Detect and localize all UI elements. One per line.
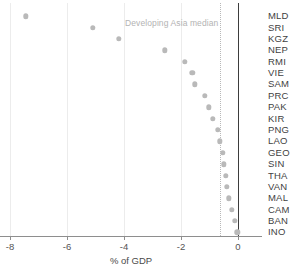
data-point-pak	[206, 105, 211, 110]
x-tick-mark-0	[10, 236, 11, 240]
category-label-ban: BAN	[268, 216, 304, 226]
data-point-mld	[23, 13, 28, 18]
data-point-ino	[235, 230, 240, 235]
category-label-mal: MAL	[268, 193, 304, 203]
zero-line	[238, 3, 239, 236]
category-label-kir: KIR	[268, 114, 304, 124]
category-label-sin: SIN	[268, 159, 304, 169]
gridline-neg2	[181, 3, 182, 236]
x-tick-mark-1	[67, 236, 68, 240]
category-labels-group: MLDSRIKGZNEPRMIVIESAMPRCPAKKIRPNGLAOGEOS…	[268, 0, 306, 240]
x-tick-mark-4	[238, 236, 239, 240]
data-point-sam	[192, 82, 197, 87]
category-label-kgz: KGZ	[268, 34, 304, 44]
data-point-vie	[189, 70, 194, 75]
category-label-sri: SRI	[268, 23, 304, 33]
category-label-cam: CAM	[268, 205, 304, 215]
data-point-kgz	[116, 36, 121, 41]
data-point-geo	[220, 150, 225, 155]
category-label-geo: GEO	[268, 148, 304, 158]
category-label-nep: NEP	[268, 45, 304, 55]
category-label-pak: PAK	[268, 102, 304, 112]
data-point-rmi	[182, 59, 187, 64]
category-label-van: VAN	[268, 182, 304, 192]
x-tick-label-2: -4	[120, 241, 128, 252]
category-label-rmi: RMI	[268, 57, 304, 67]
median-label: Developing Asia median	[125, 18, 218, 28]
data-point-prc	[202, 93, 207, 98]
data-point-sri	[90, 25, 95, 30]
x-tick-label-1: -6	[63, 241, 71, 252]
gridline-neg6	[67, 3, 68, 236]
x-tick-mark-3	[181, 236, 182, 240]
data-point-tha	[223, 173, 228, 178]
data-point-cam	[229, 207, 234, 212]
x-tick-label-4: 0	[235, 241, 240, 252]
data-point-sin	[221, 161, 226, 166]
data-point-ban	[232, 218, 237, 223]
category-label-prc: PRC	[268, 91, 304, 101]
data-point-van	[224, 184, 229, 189]
data-point-nep	[162, 48, 167, 53]
median-line	[220, 3, 221, 236]
category-label-mld: MLD	[268, 11, 304, 21]
gridline-neg4	[124, 3, 125, 236]
category-label-tha: THA	[268, 171, 304, 181]
x-tick-mark-2	[124, 236, 125, 240]
category-label-png: PNG	[268, 125, 304, 135]
data-point-lao	[217, 139, 222, 144]
x-axis-line	[0, 236, 262, 237]
plot-area: Developing Asia median	[0, 0, 262, 238]
category-label-sam: SAM	[268, 79, 304, 89]
x-axis-label: % of GDP	[0, 255, 262, 266]
data-point-mal	[226, 196, 231, 201]
x-tick-label-3: -2	[177, 241, 185, 252]
data-point-kir	[210, 116, 215, 121]
scatter-chart: Developing Asia median -8-6-4-20 % of GD…	[0, 0, 306, 272]
x-tick-label-0: -8	[6, 241, 14, 252]
category-label-ino: INO	[268, 227, 304, 237]
category-label-vie: VIE	[268, 68, 304, 78]
category-label-lao: LAO	[268, 136, 304, 146]
gridline-neg8	[10, 3, 11, 236]
